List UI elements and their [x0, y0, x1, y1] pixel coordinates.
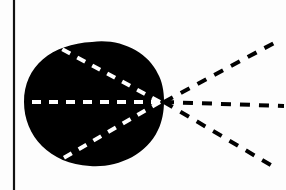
- outer-black-dashed-rays: [164, 43, 284, 167]
- lens-ray-diagram: [0, 0, 286, 190]
- outer-ray-0: [164, 43, 274, 102]
- diagram-canvas: [0, 0, 286, 190]
- outer-ray-1: [164, 102, 284, 106]
- outer-ray-2: [164, 102, 274, 167]
